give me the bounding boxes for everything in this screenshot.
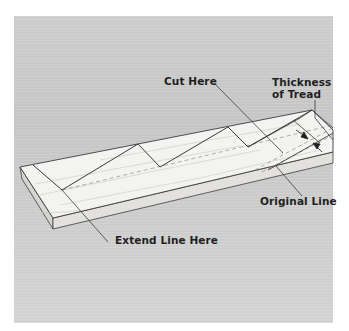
label-extend-line-here: Extend Line Here (115, 234, 218, 246)
label-cut-here: Cut Here (164, 75, 217, 87)
label-thickness-line2: of Tread (272, 88, 331, 100)
stringer-board-illustration (0, 0, 349, 331)
label-original-line: Original Line (260, 195, 337, 207)
label-thickness-line1: Thickness (272, 76, 331, 88)
label-thickness-of-tread: Thickness of Tread (272, 76, 331, 100)
